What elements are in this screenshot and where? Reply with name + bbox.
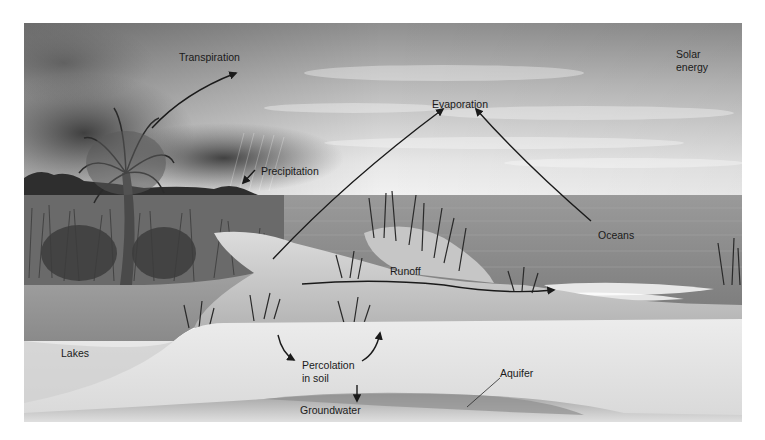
- water-cycle-illustration: Transpiration Solar energy Evaporation P…: [24, 23, 742, 422]
- label-solar-energy: Solar energy: [676, 48, 708, 74]
- label-aquifer: Aquifer: [500, 367, 533, 380]
- label-runoff: Runoff: [390, 265, 421, 278]
- label-oceans: Oceans: [598, 229, 634, 242]
- label-transpiration: Transpiration: [179, 51, 240, 64]
- label-evaporation: Evaporation: [432, 98, 488, 111]
- label-groundwater: Groundwater: [300, 404, 361, 417]
- scene-artwork: [24, 23, 742, 422]
- label-lakes: Lakes: [61, 347, 89, 360]
- label-percolation: Percolation in soil: [302, 359, 355, 385]
- label-precipitation: Precipitation: [261, 165, 319, 178]
